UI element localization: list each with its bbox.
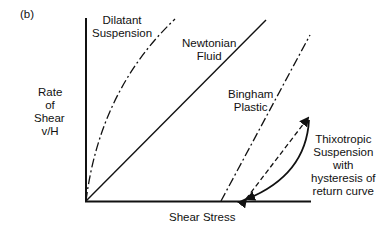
thixotropic-return-curve [247, 120, 309, 199]
dilatant-curve [86, 19, 175, 201]
dilatant-label: Dilatant Suspension [92, 14, 152, 40]
panel-label: (b) [20, 8, 34, 21]
newtonian-label: Newtonian Fluid [182, 37, 236, 63]
thixotropic-label: Thixotropic Suspension with hysteresis o… [311, 133, 376, 198]
x-axis-label: Shear Stress [169, 211, 235, 224]
rheology-diagram: (b) Dilatant Suspension Newtonian Fluid … [0, 0, 389, 233]
bingham-label: Bingham Plastic [228, 88, 273, 114]
y-axis-label: Rate of Shear v/H [38, 86, 62, 138]
